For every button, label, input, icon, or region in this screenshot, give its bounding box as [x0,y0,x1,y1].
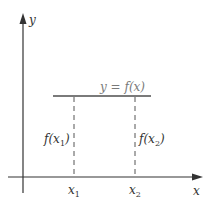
x-axis [8,174,203,181]
y-axis-arrow-icon [20,13,27,24]
y-axis [20,13,27,193]
x2-tick-label: x2 [129,183,141,199]
f-x2-label: f(x2) [138,132,165,148]
x-axis-arrow-icon [192,174,203,181]
y-axis-label: y [28,13,36,27]
function-label: y = f(x) [99,80,145,94]
f-x1-label: f(x1) [43,132,70,148]
constant-function-diagram: y x y = f(x) f(x1) f(x2) x1 x2 [0,0,210,204]
x1-tick-label: x1 [68,183,80,199]
x-axis-label: x [193,184,200,198]
